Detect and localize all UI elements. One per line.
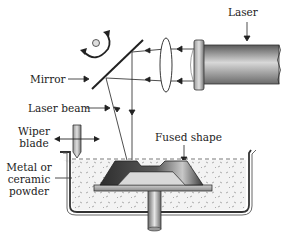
- label-wiper-line1: Wiper: [14, 125, 54, 137]
- wiper-blade: [54, 125, 100, 158]
- label-fused-shape: Fused shape: [155, 131, 222, 143]
- lens: [160, 38, 172, 92]
- label-powder-line2: ceramic: [4, 173, 54, 185]
- label-mirror: Mirror: [30, 73, 66, 85]
- laser-beams: [106, 46, 194, 172]
- build-platform: [94, 185, 212, 191]
- mirror: [92, 40, 143, 89]
- laser: [191, 40, 281, 90]
- piston: [148, 187, 161, 229]
- label-wiper-line2: blade: [14, 137, 54, 149]
- rotation-arrow-icon: [80, 30, 110, 57]
- label-laser: Laser: [228, 6, 258, 18]
- sls-diagram: Laser Mirror Laser beam Fused shape Wipe…: [0, 0, 285, 244]
- label-powder-line1: Metal or: [4, 161, 54, 173]
- label-powder-line3: powder: [4, 185, 54, 197]
- label-powder: Metal or ceramic powder: [4, 161, 54, 197]
- diagram-graphics: [0, 0, 285, 244]
- label-wiper-blade: Wiper blade: [14, 125, 54, 149]
- label-laser-beam: Laser beam: [28, 102, 90, 114]
